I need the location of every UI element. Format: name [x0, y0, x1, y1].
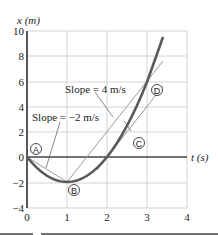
svg-text:4: 4 [19, 101, 25, 113]
point-c: C [134, 138, 145, 149]
point-b: B [69, 185, 80, 196]
svg-text:3: 3 [144, 211, 150, 223]
svg-text:D: D [154, 86, 161, 96]
position-time-chart: 10 8 6 4 2 0 −2 −4 0 1 2 3 4 x (m) t (s)… [0, 0, 218, 235]
svg-text:4: 4 [184, 211, 190, 223]
svg-text:−2: −2 [12, 177, 24, 189]
point-d: D [152, 85, 163, 96]
x-axis-label: t (s) [191, 151, 209, 164]
svg-text:8: 8 [19, 50, 25, 62]
x-tick-labels: 0 1 2 3 4 [24, 211, 190, 223]
svg-text:1: 1 [64, 211, 70, 223]
chord-a-b [27, 157, 67, 182]
svg-text:6: 6 [19, 76, 25, 88]
svg-text:A: A [33, 145, 39, 155]
leader-slope-2 [46, 122, 60, 168]
svg-text:10: 10 [13, 25, 25, 37]
svg-text:2: 2 [104, 211, 110, 223]
svg-text:0: 0 [24, 211, 30, 223]
slope-neg2-annotation: Slope = −2 m/s [32, 111, 99, 123]
svg-text:−4: −4 [12, 202, 24, 214]
y-axis-label: x (m) [16, 14, 40, 27]
svg-text:2: 2 [19, 126, 25, 138]
svg-text:C: C [136, 139, 143, 149]
svg-text:0: 0 [19, 151, 25, 163]
svg-text:B: B [71, 186, 77, 196]
slope-4-annotation: Slope = 4 m/s [65, 83, 126, 95]
y-tick-labels: 10 8 6 4 2 0 −2 −4 [12, 25, 24, 214]
point-a: A [31, 144, 42, 155]
position-curve [27, 37, 163, 182]
